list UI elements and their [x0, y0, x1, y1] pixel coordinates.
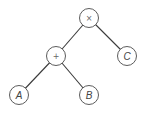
node-c-label: C	[123, 51, 131, 62]
node-c: C	[118, 47, 137, 66]
node-b-label: B	[86, 90, 93, 101]
node-times: ×	[80, 9, 99, 28]
node-plus: +	[47, 47, 66, 66]
node-a: A	[10, 86, 29, 105]
expression-tree-diagram: × + C A B	[0, 0, 148, 113]
node-times-label: ×	[86, 14, 93, 23]
edges	[19, 18, 127, 95]
node-b: B	[80, 86, 99, 105]
node-plus-label: +	[53, 52, 60, 61]
node-a-label: A	[15, 90, 23, 101]
